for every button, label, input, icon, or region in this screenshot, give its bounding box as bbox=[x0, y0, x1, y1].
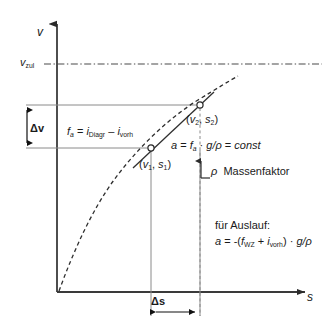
auslauf-close: ) · bbox=[283, 235, 296, 247]
rho-massenfaktor-note: ρ Massenfaktor bbox=[211, 166, 289, 177]
point-1-s-subscript: 1 bbox=[164, 164, 168, 171]
point-2-label: (v2, s2) bbox=[186, 114, 218, 125]
point-1-s-base: s bbox=[158, 158, 164, 170]
auslauf-term1-subscript: WZ bbox=[244, 241, 255, 248]
vzul-subscript: zul bbox=[26, 62, 35, 69]
point-2-s-base: s bbox=[205, 113, 211, 125]
point-2-s-subscript: 2 bbox=[211, 119, 215, 126]
rho-leader bbox=[201, 161, 210, 178]
point-1-label: (v1, s1) bbox=[139, 159, 171, 170]
axis-label-v: v bbox=[37, 26, 43, 38]
vzul-base: v bbox=[20, 56, 26, 68]
point-2-close: ) bbox=[214, 113, 218, 125]
rho-note-text: Massenfaktor bbox=[223, 165, 289, 177]
marker-point-1 bbox=[148, 145, 154, 151]
a-rhs: g/ρ bbox=[206, 139, 221, 151]
a-f-subscript: a bbox=[193, 145, 197, 152]
rho-symbol: ρ bbox=[211, 165, 217, 177]
delta-v-label: Δv bbox=[30, 123, 44, 134]
auslauf-heading: für Auslauf: bbox=[215, 220, 270, 231]
point-2-v-subscript: 2 bbox=[195, 119, 199, 126]
vzul-label: vzul bbox=[20, 57, 34, 68]
point-1-close: ) bbox=[167, 158, 171, 170]
a-dot: · bbox=[197, 139, 207, 151]
delta-s-label: Δs bbox=[151, 296, 165, 307]
fa-lhs-subscript: a bbox=[70, 131, 74, 138]
a-equals: = bbox=[177, 139, 190, 151]
velocity-distance-diagram: v s vzul Δv Δs fa = iDiagr – ivorh a = f… bbox=[0, 0, 330, 325]
auslauf-term2-subscript: vorh bbox=[270, 241, 283, 248]
fa-term2-subscript: vorh bbox=[120, 131, 133, 138]
fa-equals: = bbox=[74, 125, 87, 137]
velocity-curve bbox=[59, 76, 238, 291]
auslauf-equals: = -( bbox=[221, 235, 241, 247]
point-1-v-subscript: 1 bbox=[148, 164, 152, 171]
fa-term1-subscript: Diagr bbox=[89, 131, 105, 138]
auslauf-plus: + bbox=[255, 235, 268, 247]
fa-formula: fa = iDiagr – ivorh bbox=[67, 126, 133, 137]
a-const: const bbox=[234, 139, 260, 151]
auslauf-formula: a = -(fWZ + ivorh) · g/ρ bbox=[215, 236, 312, 247]
auslauf-rhs: g/ρ bbox=[296, 235, 311, 247]
fa-minus: – bbox=[105, 125, 117, 137]
a-equals-2: = bbox=[222, 139, 235, 151]
a-formula: a = fa · g/ρ = const bbox=[171, 140, 261, 151]
axis-label-s: s bbox=[307, 291, 313, 303]
marker-point-2 bbox=[197, 102, 203, 108]
